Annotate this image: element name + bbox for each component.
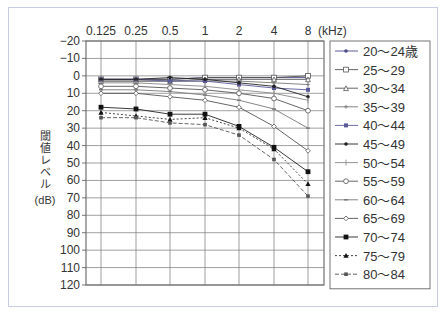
y-axis-label: レ — [40, 154, 51, 166]
y-axis-label: 値 — [40, 142, 51, 154]
legend-label: 60〜64 — [363, 193, 405, 208]
y-axis-label: 閾 — [40, 130, 51, 142]
legend-label: 40〜44 — [363, 118, 405, 133]
legend-label: 55〜59 — [363, 174, 405, 189]
y-tick-label: 120 — [60, 278, 80, 292]
legend-label: 65〜69 — [363, 211, 405, 226]
legend-label: 45〜49 — [363, 137, 405, 152]
y-tick-label: −10 — [60, 51, 81, 65]
x-tick-label: 0.125 — [86, 24, 116, 38]
y-tick-label: 70 — [67, 191, 81, 205]
legend-label: 30〜34 — [363, 81, 405, 96]
y-tick-label: 50 — [67, 156, 81, 170]
y-tick-label: 30 — [67, 121, 81, 135]
x-tick-label: 2 — [236, 24, 243, 38]
y-tick-label: 20 — [67, 104, 81, 118]
x-tick-label: 4 — [271, 24, 278, 38]
legend-label: 80〜84 — [363, 267, 405, 282]
y-tick-label: 100 — [60, 243, 80, 257]
legend-label: 70〜74 — [363, 230, 405, 245]
y-tick-label: 10 — [67, 86, 81, 100]
legend-label: 35〜39 — [363, 100, 405, 115]
y-tick-label: 60 — [67, 173, 81, 187]
x-axis-unit: (kHz) — [318, 24, 347, 38]
y-tick-label: −20 — [60, 34, 81, 48]
y-tick-label: 110 — [61, 261, 80, 275]
legend: 20〜24歳25〜2930〜3435〜3940〜4445〜4950〜5455〜5… — [330, 41, 430, 289]
legend-label: 75〜79 — [363, 249, 405, 264]
legend-label: 25〜29 — [363, 63, 405, 78]
x-tick-label: 1 — [202, 24, 209, 38]
y-axis-unit: (dB) — [35, 194, 56, 206]
audiogram-chart: −20−1001020304050607080901001101200.1250… — [0, 0, 443, 316]
y-tick-label: 40 — [67, 139, 81, 153]
x-tick-label: 0.25 — [124, 24, 148, 38]
y-axis-label: ル — [40, 178, 51, 190]
legend-label: 50〜54 — [363, 156, 405, 171]
y-tick-label: 80 — [67, 208, 81, 222]
legend-label: 20〜24歳 — [363, 44, 418, 59]
x-tick-label: 0.5 — [162, 24, 179, 38]
y-tick-label: 0 — [73, 69, 80, 83]
y-axis-label: ベ — [40, 166, 51, 178]
y-tick-label: 90 — [67, 226, 81, 240]
x-tick-label: 8 — [305, 24, 312, 38]
